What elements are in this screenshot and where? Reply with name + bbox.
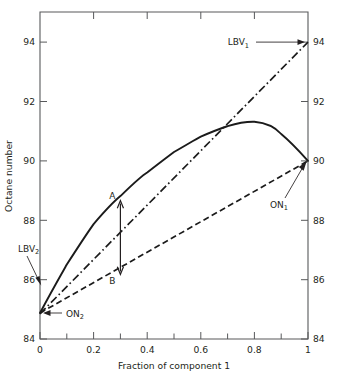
y-tick-label-right-94: 94 — [313, 36, 325, 47]
y-axis-left-labels: 94 92 90 88 86 84 — [23, 36, 35, 344]
annotation-lbv1-subscript: 1 — [245, 42, 249, 50]
x-tick-label-0-4: 0.4 — [140, 344, 155, 355]
x-tick-label-1: 1 — [305, 344, 311, 355]
x-tick-label-0-6: 0.6 — [193, 344, 208, 355]
x-axis-labels: 0 0.2 0.4 0.6 0.8 1 — [37, 344, 311, 355]
annotation-point-b-label: B — [109, 276, 115, 286]
annotation-on1-text: ON — [270, 200, 284, 210]
y-tick-label-right-90: 90 — [313, 155, 325, 166]
x-tick-label-0-2: 0.2 — [86, 344, 101, 355]
y-tick-label-left-90: 90 — [23, 155, 35, 166]
y-tick-label-right-86: 86 — [313, 274, 325, 285]
y-tick-label-right-88: 88 — [313, 215, 325, 226]
y-axis-right-labels: 94 92 90 88 86 84 — [313, 36, 325, 344]
plot-area-background — [40, 12, 308, 339]
annotation-on2-subscript: 2 — [80, 313, 84, 321]
y-tick-label-right-92: 92 — [313, 96, 325, 107]
annotation-lbv1-text: LBV — [228, 37, 246, 47]
x-axis-title: Fraction of component 1 — [118, 360, 230, 371]
x-tick-label-0-8: 0.8 — [247, 344, 262, 355]
y-tick-label-left-84: 84 — [23, 333, 35, 344]
annotation-on2-text: ON — [66, 309, 80, 319]
y-tick-label-left-88: 88 — [23, 215, 35, 226]
annotation-lbv2-text: LBV — [18, 244, 36, 254]
annotation-lbv2-label: LBV2 — [18, 244, 39, 256]
y-tick-label-left-92: 92 — [23, 96, 35, 107]
x-tick-label-0: 0 — [37, 344, 43, 355]
y-axis-title: Octane number — [3, 140, 14, 212]
annotation-on1-subscript: 1 — [284, 204, 288, 212]
y-tick-label-right-84: 84 — [313, 333, 325, 344]
y-tick-label-left-86: 86 — [23, 274, 35, 285]
annotation-point-a-label: A — [109, 191, 116, 201]
chart-figure: 94 92 90 88 86 84 94 92 90 88 86 84 — [0, 0, 351, 381]
y-tick-label-left-94: 94 — [23, 36, 35, 47]
annotation-lbv2-subscript: 2 — [35, 248, 39, 256]
octane-blending-chart: 94 92 90 88 86 84 94 92 90 88 86 84 — [0, 0, 351, 381]
